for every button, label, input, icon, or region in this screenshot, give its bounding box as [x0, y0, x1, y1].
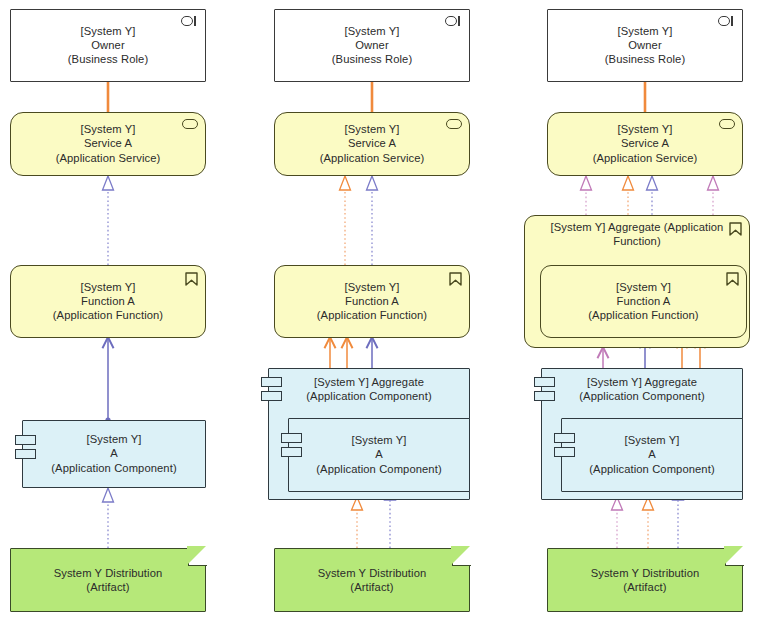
- node-application-service[interactable]: [System Y] Service A (Application Servic…: [274, 112, 470, 176]
- folded-corner-icon: [188, 547, 207, 566]
- node-application-component[interactable]: [System Y] A (Application Component): [22, 420, 206, 488]
- node-label: [System Y] A (Application Component): [23, 432, 205, 475]
- node-label: [System Y] Owner (Business Role): [548, 24, 742, 67]
- node-application-service[interactable]: [System Y] Service A (Application Servic…: [10, 112, 206, 176]
- node-label: [System Y] Function A (Application Funct…: [541, 280, 746, 323]
- node-application-service[interactable]: [System Y] Service A (Application Servic…: [547, 112, 743, 176]
- node-label: [System Y] Service A (Application Servic…: [11, 122, 205, 165]
- node-application-function[interactable]: [System Y] Function A (Application Funct…: [10, 265, 206, 338]
- node-application-function[interactable]: [System Y] Function A (Application Funct…: [540, 265, 747, 338]
- node-label: [System Y] Owner (Business Role): [275, 24, 469, 67]
- node-label: [System Y] Aggregate (Application Compon…: [542, 375, 742, 404]
- node-label: [System Y] A (Application Component): [562, 433, 742, 476]
- node-label: [System Y] Function A (Application Funct…: [275, 280, 469, 323]
- node-artifact[interactable]: System Y Distribution (Artifact): [10, 548, 206, 612]
- node-label: [System Y] Owner (Business Role): [11, 24, 205, 67]
- node-label: [System Y] Service A (Application Servic…: [275, 122, 469, 165]
- node-label: System Y Distribution (Artifact): [11, 566, 205, 595]
- node-label: System Y Distribution (Artifact): [275, 566, 469, 595]
- node-artifact[interactable]: System Y Distribution (Artifact): [547, 548, 743, 612]
- node-application-component[interactable]: [System Y] A (Application Component): [288, 418, 470, 492]
- archimate-diagram: [System Y] Owner (Business Role) [System…: [0, 0, 760, 622]
- node-business-role[interactable]: [System Y] Owner (Business Role): [274, 9, 470, 82]
- node-label: System Y Distribution (Artifact): [548, 566, 742, 595]
- node-business-role[interactable]: [System Y] Owner (Business Role): [547, 9, 743, 82]
- node-label: [System Y] Service A (Application Servic…: [548, 122, 742, 165]
- node-label: [System Y] Function A (Application Funct…: [11, 280, 205, 323]
- folded-corner-icon: [452, 547, 471, 566]
- folded-corner-icon: [725, 547, 744, 566]
- node-label: [System Y] Aggregate (Application Compon…: [269, 375, 469, 404]
- node-application-function[interactable]: [System Y] Function A (Application Funct…: [274, 265, 470, 338]
- node-label: [System Y] A (Application Component): [289, 433, 469, 476]
- node-business-role[interactable]: [System Y] Owner (Business Role): [10, 9, 206, 82]
- node-artifact[interactable]: System Y Distribution (Artifact): [274, 548, 470, 612]
- node-label: [System Y] Aggregate (Application Functi…: [525, 220, 749, 249]
- node-application-component[interactable]: [System Y] A (Application Component): [561, 418, 743, 492]
